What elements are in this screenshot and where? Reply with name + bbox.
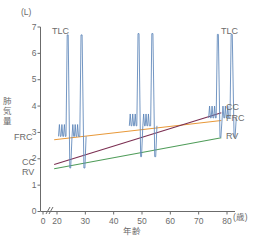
frc-label-left: FRC xyxy=(14,133,33,142)
x-axis-tick-label: 70 xyxy=(190,217,208,226)
y-axis-tick-label: 4 xyxy=(26,102,37,111)
y-axis-tick-label: 1 xyxy=(26,181,37,190)
spirogram-traces-group xyxy=(59,34,237,168)
rv-label-left: RV xyxy=(22,168,34,177)
tlc-label-right: TLC xyxy=(221,27,238,36)
trend-line-frc xyxy=(54,121,221,140)
y-axis-unit-label: (L) xyxy=(21,8,31,17)
x-axis-tick-label: 80 xyxy=(218,217,236,226)
x-axis-break-mark xyxy=(46,207,53,214)
y-axis-title-char-3: 量 xyxy=(2,116,13,126)
trend-line-rv xyxy=(54,138,221,169)
trend-line-cc xyxy=(54,113,221,165)
y-axis-tick-label: 7 xyxy=(26,23,37,32)
x-axis-tick-label: 60 xyxy=(161,217,179,226)
x-axis-tick-label: 40 xyxy=(105,217,123,226)
y-axis-tick-label: 6 xyxy=(26,49,37,58)
spirogram-trace xyxy=(129,34,157,157)
tlc-label-left: TLC xyxy=(52,27,69,36)
x-axis-tick-label: 20 xyxy=(48,217,66,226)
y-axis-tick-label: 5 xyxy=(26,75,37,84)
x-axis-title: 年齢 xyxy=(123,227,141,236)
x-axis-tick-label: 50 xyxy=(133,217,151,226)
spirogram-trace xyxy=(59,35,87,168)
cc-label-left: CC xyxy=(22,158,35,167)
lung-volume-age-chart: 肺 気 量 (L) 年齢 (歳) 01234567020304050607080… xyxy=(0,0,261,245)
chart-plot-area xyxy=(0,0,261,245)
x-axis-tick-label: 30 xyxy=(76,217,94,226)
y-axis-title-char-1: 肺 xyxy=(2,96,13,106)
trend-lines-group xyxy=(54,113,221,169)
y-axis-title-char-2: 気 xyxy=(2,106,13,116)
rv-label-right: RV xyxy=(226,132,238,141)
cc-label-right: CC xyxy=(226,103,239,112)
frc-label-right: FRC xyxy=(226,114,245,123)
y-axis-title: 肺 気 量 xyxy=(2,96,13,126)
y-axis-tick-label: 0 xyxy=(26,207,37,216)
